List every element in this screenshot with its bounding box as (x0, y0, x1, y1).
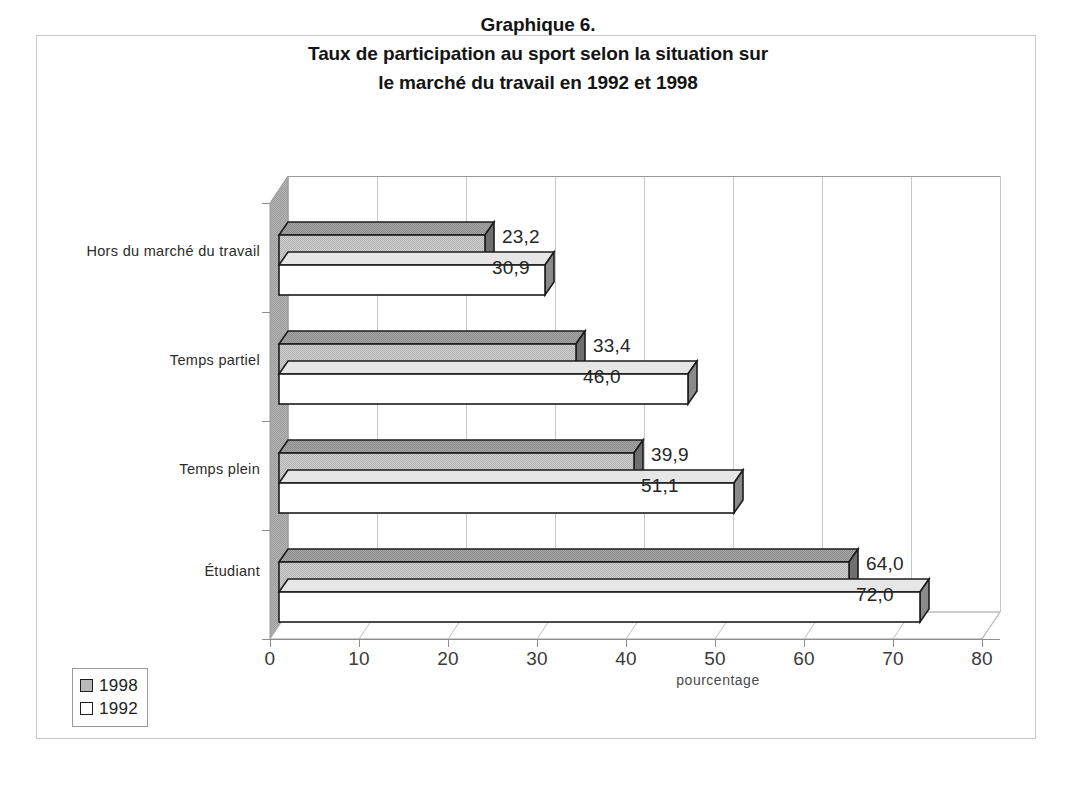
data-label-1998-temps-plein: 39,9 (651, 444, 689, 466)
legend-item-1998[interactable]: 1998 (80, 674, 138, 697)
legend-label-1998: 1998 (99, 677, 138, 694)
legend-label-1992: 1992 (99, 700, 138, 717)
data-label-1992-etudiant: 72,0 (856, 584, 894, 606)
category-label-etudiant: Étudiant (25, 563, 260, 579)
category-label-hors-du-marche: Hors du marché du travail (25, 243, 260, 259)
x-tick-label-20: 20 (437, 648, 459, 670)
data-label-1998-hors-du-marche: 23,2 (502, 226, 540, 248)
x-tick-label-80: 80 (971, 648, 993, 670)
data-label-1992-temps-partiel: 46,0 (583, 366, 621, 388)
x-tick-label-10: 10 (348, 648, 370, 670)
category-label-temps-partiel: Temps partiel (25, 352, 260, 368)
legend-swatch-1992-icon (80, 702, 93, 715)
x-axis-title-wrap: pourcentage (0, 672, 1076, 688)
data-label-1998-etudiant: 64,0 (866, 553, 904, 575)
x-tick-label-40: 40 (615, 648, 637, 670)
legend-item-1992[interactable]: 1992 (80, 697, 138, 720)
data-label-1992-hors-du-marche: 30,9 (492, 257, 530, 279)
x-axis-title: pourcentage (676, 672, 759, 688)
category-label-temps-plein: Temps plein (25, 461, 260, 477)
legend: 1998 1992 (72, 668, 148, 727)
legend-swatch-1998-icon (80, 679, 93, 692)
x-tick-label-60: 60 (793, 648, 815, 670)
x-tick-label-0: 0 (265, 648, 276, 670)
x-tick-label-30: 30 (526, 648, 548, 670)
x-tick-label-70: 70 (882, 648, 904, 670)
data-label-1998-temps-partiel: 33,4 (593, 335, 631, 357)
x-tick-label-50: 50 (704, 648, 726, 670)
data-label-1992-temps-plein: 51,1 (641, 475, 679, 497)
